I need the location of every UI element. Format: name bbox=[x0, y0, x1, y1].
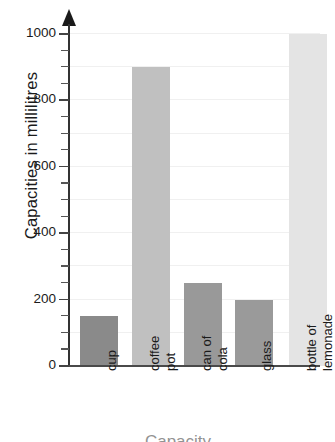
gridline bbox=[68, 99, 320, 100]
x-label-line: coffee bbox=[147, 301, 162, 371]
y-tick-label: 0 bbox=[10, 357, 56, 372]
y-tick-major bbox=[59, 33, 69, 35]
y-tick-minor bbox=[61, 216, 69, 217]
y-tick-major bbox=[59, 99, 69, 101]
y-tick-minor bbox=[61, 83, 69, 84]
x-label-line: cup bbox=[104, 301, 119, 371]
y-tick-major bbox=[59, 299, 69, 301]
x-label-line: cola bbox=[215, 301, 230, 371]
y-tick-label: 1000 bbox=[10, 25, 56, 40]
x-label-line: pot bbox=[163, 301, 178, 371]
y-tick-minor bbox=[61, 50, 69, 51]
y-tick-minor bbox=[61, 66, 69, 67]
y-tick-major bbox=[59, 232, 69, 234]
y-tick-label: 200 bbox=[10, 291, 56, 306]
y-tick-minor bbox=[61, 116, 69, 117]
y-tick-major bbox=[59, 365, 69, 367]
y-tick-minor bbox=[61, 265, 69, 266]
x-label-line: glass bbox=[259, 301, 274, 371]
y-tick-minor bbox=[61, 149, 69, 150]
x-axis-title: Capacity bbox=[108, 432, 248, 442]
gridline bbox=[68, 66, 320, 67]
gridline bbox=[68, 166, 320, 167]
x-label-line: lemonade bbox=[320, 301, 335, 371]
y-tick-label: 400 bbox=[10, 224, 56, 239]
x-label-line: can of bbox=[199, 301, 214, 371]
y-tick-minor bbox=[61, 315, 69, 316]
y-tick-label: 800 bbox=[10, 91, 56, 106]
y-tick-label: 600 bbox=[10, 158, 56, 173]
gridline bbox=[68, 265, 320, 266]
y-tick-minor bbox=[61, 182, 69, 183]
y-tick-minor bbox=[61, 332, 69, 333]
y-tick-minor bbox=[61, 199, 69, 200]
y-tick-major bbox=[59, 166, 69, 168]
gridline bbox=[68, 133, 320, 134]
y-tick-minor bbox=[61, 249, 69, 250]
gridline bbox=[68, 232, 320, 233]
y-tick-minor bbox=[61, 282, 69, 283]
y-tick-minor bbox=[61, 348, 69, 349]
y-axis-title: Capacities in millilitres bbox=[22, 21, 41, 291]
y-tick-minor bbox=[61, 133, 69, 134]
x-label-line: bottle of bbox=[304, 301, 319, 371]
gridline bbox=[68, 33, 320, 34]
gridline bbox=[68, 199, 320, 200]
